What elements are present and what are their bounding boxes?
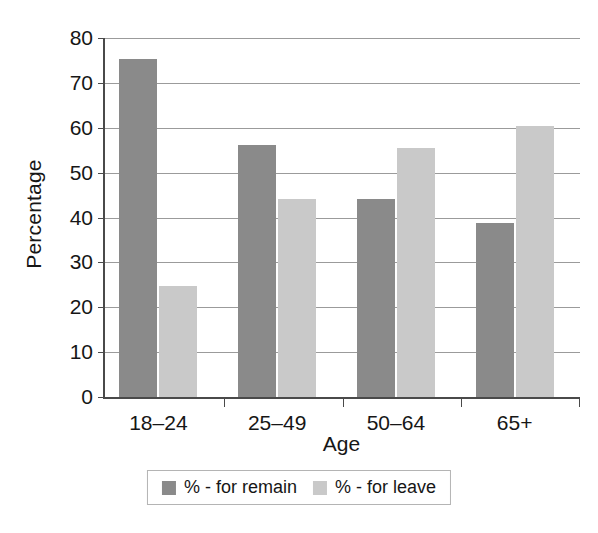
- y-tick-label: 10: [70, 340, 93, 364]
- legend-label: % - for leave: [335, 477, 436, 498]
- x-axis-title: Age: [103, 432, 580, 456]
- y-tick-mark: [98, 173, 105, 174]
- bar-for-remain: [476, 223, 514, 397]
- bar-group: [357, 38, 435, 397]
- x-tick-mark: [224, 397, 225, 407]
- y-tick-mark: [98, 128, 105, 129]
- y-tick-mark: [98, 218, 105, 219]
- y-tick-mark: [98, 262, 105, 263]
- bar-for-leave: [278, 199, 316, 397]
- y-tick-mark: [98, 83, 105, 84]
- bar-group: [119, 38, 197, 397]
- bar-for-leave: [159, 286, 197, 397]
- bar-for-remain: [119, 59, 157, 397]
- y-tick-mark: [98, 307, 105, 308]
- y-tick-label: 0: [81, 385, 93, 409]
- y-tick-label: 80: [70, 26, 93, 50]
- plot-area: 01020304050607080 18–2425–4950–6465+: [103, 38, 580, 399]
- y-tick-label: 70: [70, 71, 93, 95]
- y-axis-title: Percentage: [22, 104, 46, 324]
- x-tick-mark: [461, 397, 462, 407]
- y-tick-label: 30: [70, 250, 93, 274]
- y-tick-label: 60: [70, 116, 93, 140]
- bars-layer: [105, 38, 580, 397]
- legend-swatch-icon: [162, 481, 176, 495]
- x-tick-mark: [343, 397, 344, 407]
- y-tick-label: 20: [70, 295, 93, 319]
- legend-swatch-icon: [313, 481, 327, 495]
- chart-legend: % - for remain% - for leave: [147, 470, 451, 505]
- legend-item: % - for remain: [162, 477, 297, 498]
- y-tick-label: 50: [70, 161, 93, 185]
- bar-chart-figure: Percentage 01020304050607080 18–2425–495…: [0, 0, 598, 533]
- bar-group: [476, 38, 554, 397]
- legend-item: % - for leave: [313, 477, 436, 498]
- y-tick-mark: [98, 38, 105, 39]
- y-tick-mark: [98, 352, 105, 353]
- bar-for-leave: [397, 148, 435, 397]
- x-tick-mark: [579, 397, 580, 407]
- y-tick-mark: [98, 397, 105, 398]
- legend-label: % - for remain: [184, 477, 297, 498]
- bar-group: [238, 38, 316, 397]
- y-tick-label: 40: [70, 206, 93, 230]
- bar-for-remain: [238, 145, 276, 397]
- bar-for-leave: [516, 126, 554, 397]
- bar-for-remain: [357, 199, 395, 397]
